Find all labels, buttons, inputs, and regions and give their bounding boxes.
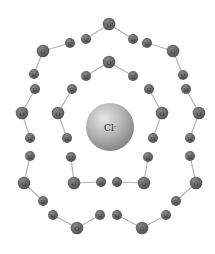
hydrogen-atom: H	[38, 196, 48, 206]
hydrogen-atom: H	[112, 177, 122, 187]
oxygen-atom: O	[167, 45, 180, 58]
atom-label: O	[142, 180, 147, 187]
atom-label: H	[69, 155, 74, 161]
atom-label: H	[65, 136, 70, 142]
hydrogen-atom: H	[30, 84, 40, 94]
oxygen-atom: O	[136, 222, 149, 235]
hydrogen-atom: H	[25, 133, 35, 143]
oxygen-atom: O	[103, 56, 116, 69]
atom-label: H	[68, 41, 73, 47]
hydrogen-atom: H	[112, 210, 122, 220]
oxygen-atom: O	[190, 177, 203, 190]
atom-label: O	[22, 180, 27, 187]
hydrogen-atom: H	[181, 84, 191, 94]
atom-label: H	[184, 87, 189, 93]
atom-label: H	[41, 199, 46, 205]
oxygen-atom: O	[193, 107, 206, 120]
hydrogen-atom: H	[128, 71, 138, 81]
atom-label: H	[145, 41, 150, 47]
hydrogen-atom: H	[148, 133, 158, 143]
hydrogen-atom: H	[185, 151, 195, 161]
oxygen-atom: O	[138, 177, 151, 190]
atom-label: O	[72, 180, 77, 187]
atom-label: H	[131, 37, 136, 43]
atom-label: H	[131, 74, 136, 80]
hydrogen-atom: H	[143, 152, 153, 162]
atom-label: O	[197, 110, 202, 117]
atom-label: O	[194, 180, 199, 187]
atom-label: H	[146, 155, 151, 161]
oxygen-atom: O	[37, 45, 50, 58]
atom-label: O	[171, 48, 176, 55]
oxygen-atom: O	[103, 18, 116, 31]
water-chloride-cluster-diagram: Cl- OHHHOHOHHHHOOOHHHHOOHHHHHHHHOOHHOOHH…	[0, 0, 215, 254]
hydrogen-atom: H	[171, 196, 181, 206]
oxygen-atom: O	[16, 107, 29, 120]
atom-label: H	[84, 74, 89, 80]
atom-label: H	[188, 136, 193, 142]
atom-label: H	[98, 213, 103, 219]
atom-label: H	[32, 72, 37, 78]
oxygen-atom: O	[68, 177, 81, 190]
atom-label: O	[107, 59, 112, 66]
atom-label: H	[115, 180, 120, 186]
hydrogen-atom: H	[161, 210, 171, 220]
atom-label: H	[181, 73, 186, 79]
hydrogen-atom: H	[65, 38, 75, 48]
atom-label: O	[56, 110, 61, 117]
hydrogen-atom: H	[96, 177, 106, 187]
hydrogen-atom: H	[81, 34, 91, 44]
chloride-ion: Cl-	[86, 103, 134, 151]
hydrogen-atom: H	[29, 69, 39, 79]
atom-label: H	[28, 154, 33, 160]
hydrogen-atom: H	[48, 210, 58, 220]
hydrogen-atom: H	[62, 133, 72, 143]
atom-label: H	[115, 213, 120, 219]
atom-label: H	[28, 136, 33, 142]
atom-label: H	[174, 199, 179, 205]
oxygen-atom: O	[52, 107, 65, 120]
hydrogen-atom: H	[185, 133, 195, 143]
hydrogen-atom: H	[142, 38, 152, 48]
atom-label: H	[188, 154, 193, 160]
hydrogen-atom: H	[25, 151, 35, 161]
atom-label: O	[41, 48, 46, 55]
atom-label: O	[20, 110, 25, 117]
oxygen-atom: O	[71, 222, 84, 235]
atom-label: H	[164, 213, 169, 219]
hydrogen-atom: H	[67, 84, 77, 94]
hydrogen-atom: H	[95, 210, 105, 220]
atom-label: H	[147, 87, 152, 93]
atom-label: H	[99, 180, 104, 186]
atom-label: H	[51, 213, 56, 219]
atom-label: H	[70, 87, 75, 93]
atom-label: O	[140, 225, 145, 232]
oxygen-atom: O	[156, 107, 169, 120]
hydrogen-atom: H	[128, 34, 138, 44]
hydrogen-atom: H	[81, 71, 91, 81]
atom-label: O	[107, 21, 112, 28]
hydrogen-atom: H	[178, 70, 188, 80]
atom-label: H	[151, 136, 156, 142]
oxygen-atom: O	[18, 177, 31, 190]
hydrogen-atom: H	[66, 152, 76, 162]
atom-label: O	[75, 225, 80, 232]
atom-label: H	[84, 37, 89, 43]
hydrogen-atom: H	[144, 84, 154, 94]
atom-label: O	[160, 110, 165, 117]
atom-label: H	[33, 87, 38, 93]
